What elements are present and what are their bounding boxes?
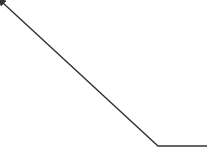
diagram-canvas — [0, 0, 207, 154]
connector-arrow[interactable] — [3, 3, 207, 146]
